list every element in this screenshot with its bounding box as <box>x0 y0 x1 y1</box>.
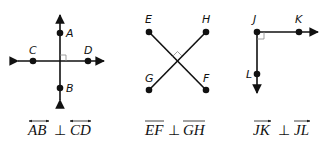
point-d <box>85 58 92 65</box>
label-f: F <box>203 72 210 85</box>
caption-segments: EF ⊥ GH <box>144 121 206 138</box>
label-b: B <box>66 82 74 95</box>
perpendicular-symbol: ⊥ <box>54 123 66 138</box>
point-j <box>254 29 261 36</box>
figure-lines-ab-cd: A B C D <box>18 15 104 100</box>
caption-left: JK <box>253 122 271 138</box>
caption-lines: AB ⊥ CD <box>27 121 91 138</box>
label-c: C <box>29 44 37 57</box>
label-d: D <box>84 44 92 57</box>
point-k <box>296 29 303 36</box>
point-f <box>203 87 210 94</box>
label-j: J <box>251 13 256 26</box>
label-h: H <box>202 13 210 26</box>
point-h <box>203 29 210 36</box>
right-angle-mark <box>60 55 66 61</box>
right-angle-mark <box>173 52 183 57</box>
label-g: G <box>145 72 154 85</box>
figure-segments-ef-gh: E H G F <box>145 13 210 93</box>
label-e: E <box>145 13 152 26</box>
caption-rays: JK ⊥ JL <box>253 121 310 138</box>
point-a <box>57 30 64 37</box>
perpendicular-diagrams: A B C D E H G F J K L AB ⊥ CD <box>0 0 322 144</box>
perpendicular-symbol: ⊥ <box>168 123 180 138</box>
caption-left: EF <box>144 122 164 138</box>
caption-right: GH <box>183 122 206 138</box>
label-a: A <box>65 27 74 40</box>
figure-rays-jk-jl: J K L <box>246 13 318 93</box>
caption-right: CD <box>70 122 91 138</box>
point-g <box>146 87 153 94</box>
point-l <box>254 71 261 78</box>
caption-right: JL <box>294 122 309 138</box>
point-c <box>30 58 37 65</box>
caption-left: AB <box>27 122 46 138</box>
label-k: K <box>295 13 303 26</box>
point-e <box>146 29 153 36</box>
label-l: L <box>246 68 252 81</box>
perpendicular-symbol: ⊥ <box>278 123 290 138</box>
point-b <box>57 85 64 92</box>
